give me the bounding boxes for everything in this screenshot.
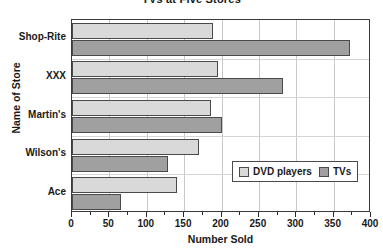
x-tick-minor-25 (90, 212, 91, 215)
x-axis-title: Number Sold (71, 233, 370, 245)
y-tick-label-wilson-s: Wilson's (0, 147, 66, 158)
x-tick-minor-175 (202, 212, 203, 215)
x-tick-major-150 (183, 212, 184, 217)
x-tick-major-50 (108, 212, 109, 217)
bar-ace-tvs (72, 194, 121, 210)
x-tick-major-100 (146, 212, 147, 217)
legend-label-dvd-players: DVD players (253, 166, 312, 177)
plot-area (71, 19, 370, 212)
x-tick-label-200: 200 (201, 218, 241, 229)
bar-chart: TVs at Five Stores Name of Store Number … (0, 0, 383, 251)
x-tick-label-150: 150 (163, 218, 203, 229)
x-tick-major-300 (295, 212, 296, 217)
x-tick-label-50: 50 (88, 218, 128, 229)
x-tick-major-350 (333, 212, 334, 217)
x-tick-label-350: 350 (313, 218, 353, 229)
row-separator (72, 97, 369, 98)
x-tick-minor-125 (164, 212, 165, 215)
bar-martin-s-tvs (72, 117, 222, 133)
legend-label-tvs: TVs (333, 166, 351, 177)
x-tick-minor-275 (277, 212, 278, 215)
x-tick-major-200 (221, 212, 222, 217)
x-tick-label-400: 400 (350, 218, 383, 229)
row-separator (72, 59, 369, 60)
legend-swatch-icon-tvs (319, 167, 329, 177)
legend-entry-dvd-players: DVD players (239, 166, 312, 177)
bar-xxx-tvs (72, 78, 283, 94)
bar-martin-s-dvd-players (72, 100, 211, 116)
y-tick-label-martin-s: Martin's (0, 109, 66, 120)
row-separator (72, 136, 369, 137)
chart-title: TVs at Five Stores (0, 0, 383, 5)
bar-shop-rite-tvs (72, 40, 350, 56)
legend-swatch-icon-dvd-players (239, 167, 249, 177)
y-tick-label-xxx: XXX (0, 70, 66, 81)
bar-wilson-s-dvd-players (72, 139, 199, 155)
bar-shop-rite-dvd-players (72, 23, 213, 39)
y-tick-label-shop-rite: Shop-Rite (0, 31, 66, 42)
bar-xxx-dvd-players (72, 61, 218, 77)
x-tick-minor-325 (314, 212, 315, 215)
x-tick-minor-75 (127, 212, 128, 215)
x-tick-label-100: 100 (126, 218, 166, 229)
x-tick-major-0 (71, 212, 72, 217)
y-tick-label-ace: Ace (0, 186, 66, 197)
x-tick-major-400 (370, 212, 371, 217)
x-tick-minor-375 (351, 212, 352, 215)
legend-entry-tvs: TVs (319, 166, 351, 177)
x-tick-major-250 (258, 212, 259, 217)
x-tick-minor-225 (239, 212, 240, 215)
y-axis-title: Name of Store (10, 43, 22, 153)
bar-wilson-s-tvs (72, 156, 168, 172)
bar-ace-dvd-players (72, 177, 177, 193)
x-tick-label-250: 250 (238, 218, 278, 229)
x-tick-label-300: 300 (275, 218, 315, 229)
chart-legend: DVD playersTVs (232, 161, 358, 182)
x-tick-label-0: 0 (51, 218, 91, 229)
